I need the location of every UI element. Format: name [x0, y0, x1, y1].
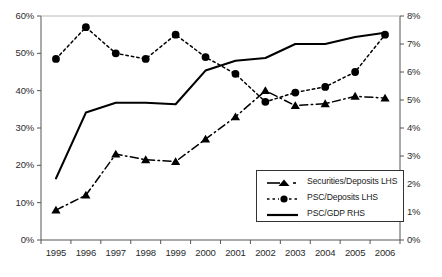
data-point-triangle [351, 92, 360, 100]
left-axis-ticks [37, 16, 41, 240]
x-axis-tick-label: 2006 [368, 247, 402, 258]
x-axis-tick-label: 2000 [189, 247, 223, 258]
right-axis-tick-label: 6% [407, 66, 441, 77]
right-axis-tick-label: 2% [407, 178, 441, 189]
legend-marker-circle-dotted-icon [265, 191, 303, 207]
data-point-triangle [111, 150, 120, 158]
data-point-triangle [291, 101, 300, 109]
data-point-circle [142, 55, 150, 63]
legend-item-securities-deposits: Securities/Deposits LHS [257, 175, 405, 191]
x-axis-tick-label: 1996 [69, 247, 103, 258]
data-point-circle [351, 68, 359, 76]
x-axis-tick-label: 2005 [338, 247, 372, 258]
data-point-triangle [51, 206, 60, 214]
legend-item-psc-gdp: PSC/GDP RHS [257, 207, 405, 223]
data-point-circle [321, 83, 329, 91]
data-point-triangle [261, 86, 270, 94]
left-axis-tick-label: 20% [0, 159, 34, 170]
chart-plot-area [0, 0, 442, 277]
legend-label-psc-deposits: PSC/Deposits LHS [307, 192, 378, 202]
right-axis-tick-label: 7% [407, 38, 441, 49]
legend-marker-triangle-dash-dot-icon [265, 175, 303, 191]
left-axis-tick-label: 50% [0, 47, 34, 58]
x-axis-tick-label: 2002 [248, 247, 282, 258]
x-axis-tick-label: 2003 [278, 247, 312, 258]
x-axis-tick-label: 1997 [99, 247, 133, 258]
right-axis-tick-label: 0% [407, 234, 441, 245]
x-axis-tick-label: 1998 [129, 247, 163, 258]
x-axis-tick-label: 1995 [39, 247, 73, 258]
right-axis-tick-label: 4% [407, 122, 441, 133]
series-psc-deposits-lhs [52, 23, 389, 105]
data-point-circle [232, 70, 240, 78]
data-point-circle [112, 49, 120, 57]
legend-marker-solid-line-icon [265, 207, 303, 223]
left-axis-tick-label: 60% [0, 10, 34, 21]
left-axis-tick-label: 10% [0, 197, 34, 208]
series-psc-gdp-rhs [56, 33, 385, 179]
data-point-triangle [231, 112, 240, 120]
x-axis-tick-label: 1999 [159, 247, 193, 258]
x-axis-tick-label: 2004 [308, 247, 342, 258]
data-point-circle [202, 53, 210, 61]
left-axis-tick-label: 40% [0, 85, 34, 96]
data-point-circle [381, 31, 389, 39]
data-point-circle [172, 31, 180, 39]
left-axis-tick-label: 0% [0, 234, 34, 245]
right-axis-tick-label: 5% [407, 94, 441, 105]
left-axis-tick-label: 30% [0, 122, 34, 133]
chart-legend: Securities/Deposits LHS PSC/Deposits LHS… [256, 170, 404, 222]
chart-container: 0%10%20%30%40%50%60% 0%1%2%3%4%5%6%7%8% … [0, 0, 442, 277]
data-point-circle [82, 23, 90, 31]
right-axis-tick-label: 1% [407, 206, 441, 217]
legend-item-psc-deposits: PSC/Deposits LHS [257, 191, 405, 207]
x-axis-tick-label: 2001 [218, 247, 252, 258]
data-point-circle [261, 98, 269, 106]
data-point-circle [52, 55, 60, 63]
legend-label-securities-deposits: Securities/Deposits LHS [307, 176, 397, 186]
data-point-circle [291, 89, 299, 97]
right-axis-tick-label: 3% [407, 150, 441, 161]
right-axis-tick-label: 8% [407, 10, 441, 21]
legend-label-psc-gdp: PSC/GDP RHS [307, 208, 365, 218]
x-axis-ticks [41, 240, 400, 244]
